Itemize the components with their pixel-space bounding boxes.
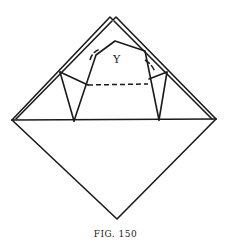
outer-diamond [12, 17, 216, 219]
origami-fold-diagram: Y [0, 0, 231, 250]
flap-label-y: Y [112, 53, 121, 66]
fold-arrow-right-icon [145, 60, 155, 72]
figure-caption: FIG. 150 [0, 229, 231, 239]
left-flap [60, 72, 88, 121]
base-line [12, 119, 216, 120]
fold-line-dashed [88, 84, 148, 85]
